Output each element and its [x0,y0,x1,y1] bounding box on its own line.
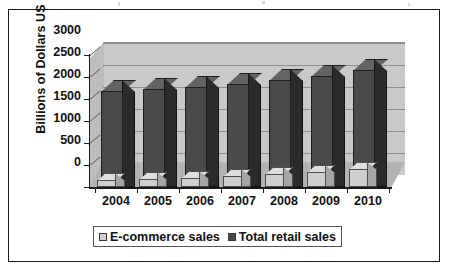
bar-side-face [206,76,219,187]
bar-ecommerce-sales[interactable] [349,162,368,187]
scan-artifact [118,2,120,6]
bar-front-face [139,179,158,187]
y-tick-mark [84,55,89,56]
bar-ecommerce-sales[interactable] [307,165,326,187]
x-separator [263,188,264,193]
x-separator [179,188,180,193]
x-separator [137,188,138,193]
bar-ecommerce-sales[interactable] [139,172,158,187]
y-tick-mark [84,77,89,78]
x-axis-labels: 2004 2005 2006 2007 2008 2009 2010 [89,192,405,210]
y-tick-label: 1000 [41,112,81,125]
bar-ecommerce-sales[interactable] [181,171,200,187]
y-tick-mark [84,99,89,100]
x-tick-label-2008: 2008 [263,194,305,208]
y-tick-mark [84,165,89,166]
x-tick-label-2007: 2007 [221,194,263,208]
bar-ecommerce-sales[interactable] [265,167,284,187]
bar-front-face [307,172,326,187]
bar-ecommerce-sales[interactable] [223,169,242,187]
x-tick-label-2010: 2010 [347,194,389,208]
bar-group[interactable] [139,41,179,187]
y-tick-label: 0 [41,156,81,169]
y-tick-label: 2000 [41,68,81,81]
y-tick-mark [84,187,89,188]
x-tick-label-2004: 2004 [95,194,137,208]
chart-legend: E-commerce sales Total retail sales [93,226,342,247]
y-tick-label: 2500 [41,46,81,59]
y-tick-label: 3000 [41,24,81,37]
x-separator [389,188,390,193]
bar-front-face [181,178,200,187]
legend-swatch-icon [99,233,107,241]
bar-group[interactable] [265,41,305,187]
bar-side-face [374,59,387,187]
scan-artifact [408,3,410,6]
bar-side-face [122,80,135,187]
bar-group[interactable] [97,41,137,187]
legend-label: Total retail sales [239,230,336,244]
legend-entry-ecommerce-sales[interactable]: E-commerce sales [99,230,220,244]
y-tick-label: 500 [41,134,81,147]
bar-side-face [164,78,177,187]
x-separator [95,188,96,193]
x-tick-label-2006: 2006 [179,194,221,208]
legend-entry-total-retail-sales[interactable]: Total retail sales [228,230,336,244]
x-tick-label-2005: 2005 [137,194,179,208]
bar-group[interactable] [223,41,263,187]
x-separator [221,188,222,193]
bar-group[interactable] [181,41,221,187]
x-separator [347,188,348,193]
bar-ecommerce-sales[interactable] [97,173,116,187]
scan-artifact [262,1,265,4]
y-tick-mark [84,121,89,122]
screenshot-root: Billions of Dollars US 3000 2500 2000 15… [0,0,452,274]
x-tick-label-2009: 2009 [305,194,347,208]
legend-swatch-icon [228,233,236,241]
chart-3d-bar: Billions of Dollars US 3000 2500 2000 15… [9,10,441,263]
bar-front-face [223,176,242,187]
y-axis-ticks: 3000 2500 2000 1500 1000 500 0 [35,10,81,210]
y-tick-label: 1500 [41,90,81,103]
bar-front-face [265,174,284,187]
chart-frame: Billions of Dollars US 3000 2500 2000 15… [8,9,440,262]
legend-label: E-commerce sales [110,230,220,244]
bar-total-retail-sales[interactable] [143,78,165,187]
y-axis-line [89,54,90,188]
bar-total-retail-sales[interactable] [101,80,123,187]
bar-side-face [290,69,303,187]
x-separator [305,188,306,193]
bar-front-face [349,169,368,187]
bar-group[interactable] [307,41,347,187]
bar-side-face [332,65,345,187]
y-tick-mark [84,143,89,144]
bar-group[interactable] [349,41,389,187]
plot-area [89,42,405,187]
bar-front-face [97,180,116,187]
